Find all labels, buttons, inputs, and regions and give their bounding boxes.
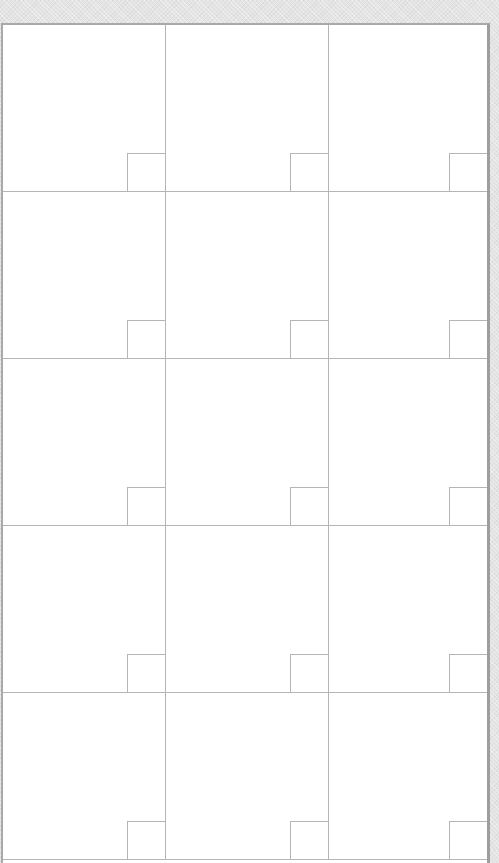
grid-cell[interactable] (3, 693, 166, 860)
day-number-box (290, 654, 328, 692)
grid-cell[interactable] (166, 25, 329, 192)
grid-cell[interactable] (329, 25, 487, 192)
calendar-grid (1, 23, 490, 863)
day-number-box (449, 153, 487, 191)
day-number-box (449, 654, 487, 692)
grid-cell[interactable] (3, 526, 166, 693)
day-number-box (127, 654, 165, 692)
grid-cell[interactable] (166, 359, 329, 526)
grid-cell[interactable] (166, 693, 329, 860)
grid-cell[interactable] (3, 359, 166, 526)
day-number-box (449, 821, 487, 859)
grid-cell[interactable] (329, 526, 487, 693)
day-number-box (127, 153, 165, 191)
day-number-box (449, 320, 487, 358)
day-number-box (290, 320, 328, 358)
day-number-box (449, 487, 487, 525)
day-number-box (127, 821, 165, 859)
day-number-box (290, 487, 328, 525)
grid-cell[interactable] (166, 192, 329, 359)
grid-cell[interactable] (166, 526, 329, 693)
grid-cell[interactable] (3, 192, 166, 359)
day-number-box (127, 320, 165, 358)
grid-cell[interactable] (329, 192, 487, 359)
day-number-box (290, 153, 328, 191)
day-number-box (127, 487, 165, 525)
day-number-box (290, 821, 328, 859)
grid-cell[interactable] (3, 25, 166, 192)
grid-cell[interactable] (329, 693, 487, 860)
grid-cell[interactable] (329, 359, 487, 526)
